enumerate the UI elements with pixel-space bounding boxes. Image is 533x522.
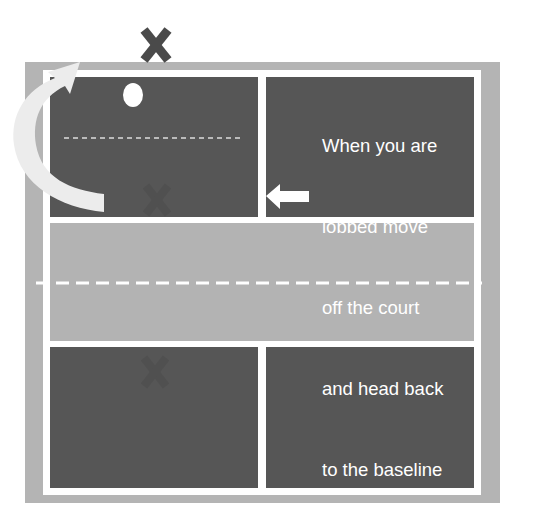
note-line: off the court bbox=[322, 294, 443, 321]
note-line: and head back bbox=[322, 375, 443, 402]
instruction-note: When you are lobbed move off the court a… bbox=[322, 78, 443, 510]
note-line: lobbed move bbox=[322, 213, 443, 240]
lob-arc-arrow-icon bbox=[13, 62, 104, 212]
note-line: to the baseline bbox=[322, 456, 443, 483]
left-arrow-icon bbox=[266, 184, 309, 209]
partner-x-icon bbox=[146, 186, 168, 214]
diagram-overlay bbox=[0, 0, 533, 522]
note-line: When you are bbox=[322, 132, 443, 159]
opponent-x-icon bbox=[144, 358, 166, 386]
player-top-x-icon bbox=[144, 30, 168, 60]
ball-icon bbox=[123, 83, 143, 107]
